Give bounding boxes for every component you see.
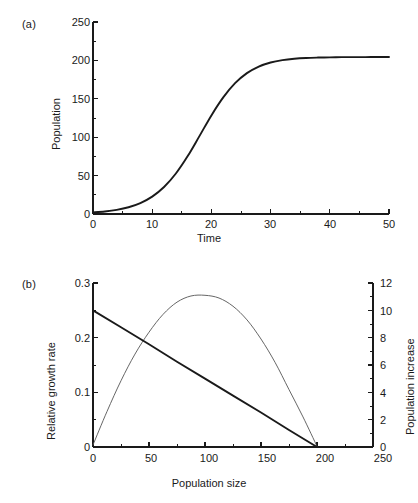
panel-a-population-vs-time: (a) Population Time 250 200 150 100 50 0… [0,0,418,260]
panel-b-plot-area [0,260,418,503]
panel-a-axes [93,22,389,214]
panel-a-plot-area [0,0,418,260]
panel-a-logistic-curve [93,57,389,212]
panel-a-x-ticks [93,209,389,214]
panel-b-axes [93,283,373,447]
panel-b-left-y-ticks [93,283,98,447]
panel-b-growth-rate-and-increase: (b) Relative growth rate Population incr… [0,260,418,503]
panel-b-population-increase-curve [93,295,317,446]
panel-b-x-ticks [93,442,373,447]
panel-b-right-y-ticks [368,283,373,447]
panel-a-y-ticks [93,22,98,214]
